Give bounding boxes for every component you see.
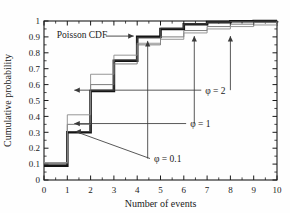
x-tick-label: 8 [228,185,233,195]
x-tick-label: 10 [273,185,283,195]
y-tick-label: 1 [36,16,41,26]
y-tick-label: 0.4 [29,112,41,122]
x-tick-label: 7 [205,185,210,195]
phi-2-label: φ = 2 [205,86,226,96]
y-tick-label: 0.2 [29,143,40,153]
figure: 01234567891000.10.20.30.40.50.60.70.80.9… [0,0,290,213]
y-tick-label: 0.9 [29,32,41,42]
x-tick-label: 1 [65,185,70,195]
x-tick-label: 2 [88,185,93,195]
poisson-cdf-label: Poisson CDF [57,30,107,40]
y-tick-label: 0.1 [29,159,40,169]
cdf-step-chart: 01234567891000.10.20.30.40.50.60.70.80.9… [0,0,290,213]
y-tick-label: 0.7 [29,64,41,74]
y-tick-label: 0.6 [29,80,41,90]
x-tick-label: 4 [135,185,140,195]
x-tick-label: 0 [42,185,47,195]
y-tick-label: 0.8 [29,48,41,58]
y-tick-label: 0.3 [29,128,41,138]
phi-1-label: φ = 1 [190,119,211,129]
x-tick-label: 6 [182,185,187,195]
phi-0p1-label: φ = 0.1 [154,154,182,164]
y-axis-title: Cumulative probability [2,54,13,147]
y-tick-label: 0.5 [29,96,41,106]
y-tick-label: 0 [36,175,41,185]
x-axis-title: Number of events [125,198,197,209]
x-tick-label: 5 [158,185,163,195]
x-tick-label: 3 [112,185,117,195]
x-tick-label: 9 [251,185,256,195]
